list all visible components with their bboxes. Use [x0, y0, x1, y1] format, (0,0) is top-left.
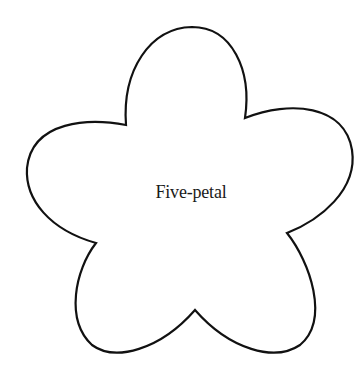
flower-label: Five-petal [0, 182, 364, 203]
